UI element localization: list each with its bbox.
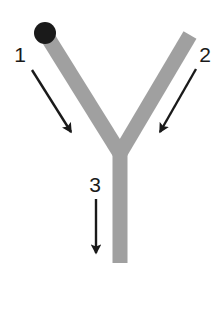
annotation-2-label: 2 <box>199 43 211 66</box>
annotation-1-label: 1 <box>14 43 26 66</box>
y-shape-diagram: 1 2 3 <box>0 0 224 310</box>
terminal-dot-icon <box>34 22 56 44</box>
figure-canvas: 1 2 3 <box>0 0 224 310</box>
annotation-3-label: 3 <box>89 173 101 196</box>
